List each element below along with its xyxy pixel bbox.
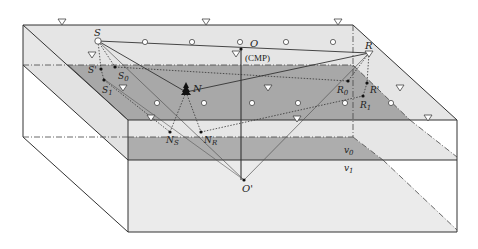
receiver-triangle-icon — [202, 19, 210, 25]
point-o-prime — [242, 178, 245, 181]
source-circle-icon — [237, 39, 242, 44]
block-diagram: S S' S0 S1 O (CMP) R R0 R' R1 N NS NR O'… — [0, 0, 478, 249]
point-s-prime — [99, 67, 102, 70]
label-s-prime: S' — [88, 65, 97, 75]
label-o-prime: O' — [242, 183, 253, 194]
point-s0 — [113, 65, 116, 68]
label-r-prime: R' — [369, 85, 379, 95]
source-circle-icon — [154, 100, 159, 105]
source-circle-icon — [283, 39, 288, 44]
point-r1 — [361, 94, 364, 97]
label-cmp: (CMP) — [245, 53, 270, 63]
point-ns — [168, 130, 171, 133]
source-circle-icon — [295, 100, 300, 105]
label-o: O — [250, 38, 258, 49]
source-circle-icon — [388, 100, 393, 105]
point-o — [239, 47, 242, 50]
point-s1 — [102, 78, 105, 81]
source-circle-icon — [249, 100, 254, 105]
source-circle-icon — [201, 100, 206, 105]
receiver-triangle-icon — [334, 19, 342, 25]
label-n: N — [192, 83, 203, 94]
point-r-prime — [365, 81, 368, 84]
label-s: S — [94, 27, 101, 38]
point-nr — [199, 130, 202, 133]
receiver-triangle-icon — [58, 19, 66, 25]
source-circle-icon — [189, 39, 194, 44]
source-circle-icon — [342, 100, 347, 105]
source-circle-icon — [95, 38, 101, 44]
front-face-upper — [128, 120, 457, 137]
diagram-canvas: S S' S0 S1 O (CMP) R R0 R' R1 N NS NR O'… — [0, 0, 478, 249]
source-circle-icon — [330, 39, 335, 44]
point-r0 — [346, 79, 349, 82]
label-r: R — [364, 40, 373, 51]
source-circle-icon — [142, 39, 147, 44]
